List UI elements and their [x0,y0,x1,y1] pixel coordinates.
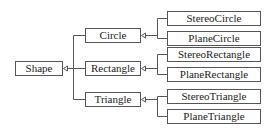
node-stereo-triangle: StereoTriangle [168,90,261,104]
node-label: StereoCircle [187,12,242,24]
node-rectangle: Rectangle [86,62,141,76]
inheritance-arrow-icon [142,66,146,71]
edge-rectangle-children [142,55,168,75]
node-shape: Shape [16,62,63,76]
edge-shape-children [64,36,86,100]
node-circle: Circle [86,29,141,43]
node-label: Rectangle [91,62,135,74]
node-stereo-circle: StereoCircle [168,12,261,26]
edge-triangle-children [142,97,168,117]
node-plane-rectangle: PlaneRectangle [168,68,261,82]
edge-circle-children [142,19,168,39]
inheritance-arrow-icon [64,66,68,71]
node-label: PlaneRectangle [180,68,249,80]
node-plane-triangle: PlaneTriangle [168,110,261,124]
node-label: Circle [100,29,127,41]
node-label: Shape [26,62,53,74]
node-plane-circle: PlaneCircle [168,32,261,46]
node-label: PlaneTriangle [183,110,244,122]
inheritance-arrow-icon [142,97,146,102]
node-label: Triangle [95,93,132,105]
node-stereo-rectangle: StereoRectangle [168,48,261,62]
node-triangle: Triangle [86,93,141,107]
node-label: StereoRectangle [178,48,250,60]
inheritance-arrow-icon [142,33,146,38]
inheritance-diagram: Shape Circle Rectangle Triangle [0,0,275,132]
node-label: PlaneCircle [188,32,239,44]
node-label: StereoTriangle [182,90,247,102]
